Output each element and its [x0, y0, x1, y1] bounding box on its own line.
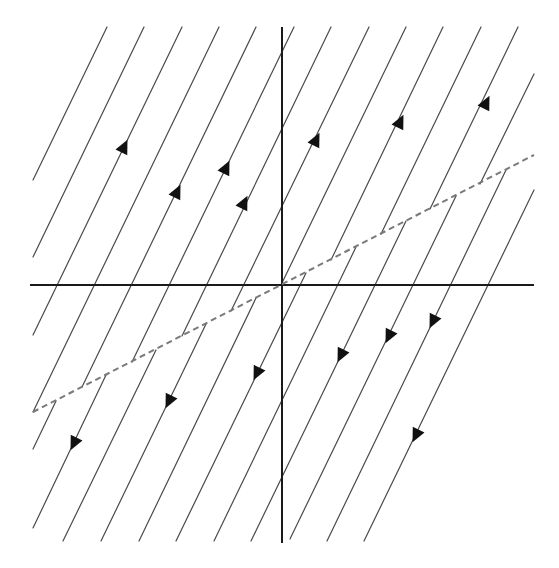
trajectory-line — [139, 298, 256, 541]
arrow-down-icon — [380, 328, 398, 346]
arrow-up-icon — [169, 182, 187, 200]
phase-portrait-diagram — [0, 0, 559, 568]
trajectory-line — [430, 27, 518, 209]
trajectory-line — [63, 350, 156, 541]
trajectory-line — [33, 375, 106, 528]
trajectory-line — [33, 401, 56, 449]
lower-trajectories — [33, 170, 534, 541]
trajectory-line — [214, 247, 356, 541]
trajectory-line — [327, 170, 506, 541]
arrow-down-icon — [332, 347, 350, 365]
arrow-up-icon — [236, 193, 254, 211]
upper-trajectories — [33, 27, 534, 412]
trajectory-line — [182, 27, 331, 336]
trajectory-line — [480, 74, 534, 184]
trajectory-line — [132, 27, 294, 362]
trajectory-line — [331, 27, 443, 260]
dashed-switching-line — [33, 155, 534, 412]
trajectory-line — [281, 27, 406, 285]
arrow-up-icon — [218, 158, 236, 176]
trajectory-line — [251, 221, 406, 541]
trajectory-line — [364, 190, 534, 541]
trajectory-line — [381, 27, 481, 234]
trajectory-line — [33, 27, 182, 335]
trajectory-line — [101, 324, 206, 541]
arrow-up-icon — [478, 93, 496, 111]
trajectory-line — [33, 27, 107, 180]
arrow-down-icon — [248, 365, 266, 383]
trajectory-line — [176, 273, 306, 541]
arrow-up-icon — [116, 137, 134, 155]
arrow-up-icon — [308, 130, 326, 148]
flow-arrows — [65, 93, 496, 453]
arrow-down-icon — [424, 313, 442, 331]
trajectory-line — [290, 196, 456, 539]
arrow-down-icon — [407, 427, 425, 445]
arrow-down-icon — [160, 393, 178, 411]
arrow-down-icon — [65, 435, 83, 453]
trajectory-line — [82, 27, 256, 387]
trajectory-line — [231, 27, 369, 311]
